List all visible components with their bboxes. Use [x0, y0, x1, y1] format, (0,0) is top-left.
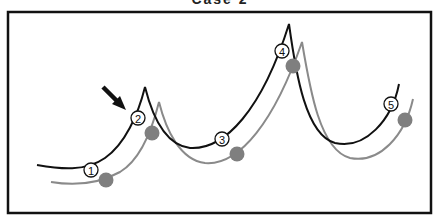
svg-text:3: 3 — [219, 134, 225, 146]
gray-dot-4 — [286, 59, 301, 74]
secondary-curve — [51, 42, 413, 184]
wave-diagram: 12345 — [0, 0, 440, 220]
gray-dot-1 — [99, 173, 114, 188]
marker-4: 4 — [275, 44, 289, 58]
arrow-icon — [103, 87, 126, 110]
svg-text:4: 4 — [279, 46, 285, 58]
marker-5: 5 — [384, 97, 398, 111]
svg-text:5: 5 — [388, 99, 394, 111]
marker-1: 1 — [84, 163, 98, 177]
marker-2: 2 — [131, 111, 145, 125]
svg-text:1: 1 — [88, 165, 94, 177]
marker-3: 3 — [215, 132, 229, 146]
dots-layer — [99, 59, 413, 188]
gray-dot-5 — [398, 113, 413, 128]
gray-dot-2 — [145, 126, 160, 141]
primary-curve — [37, 24, 399, 168]
svg-text:2: 2 — [135, 113, 141, 125]
gray-dot-3 — [230, 147, 245, 162]
